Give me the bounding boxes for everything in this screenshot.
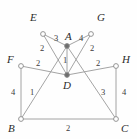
vertex-label-B: B bbox=[8, 123, 15, 134]
vertex-label-C: C bbox=[121, 123, 128, 134]
vertex-label-D: D bbox=[63, 80, 71, 91]
edge-weight-H-C: 4 bbox=[122, 88, 126, 97]
node-A bbox=[65, 44, 70, 49]
edge-weight-A-C: 3 bbox=[101, 88, 105, 97]
edge-weight-E-A: 3 bbox=[54, 34, 58, 43]
edge-B-A bbox=[21, 46, 67, 119]
vertex-label-E: E bbox=[30, 12, 37, 23]
node-D bbox=[65, 73, 70, 78]
node-G bbox=[89, 32, 94, 37]
edge-weight-A-D: 1 bbox=[63, 56, 67, 65]
edge-weight-B-A: 1 bbox=[30, 88, 34, 97]
edge-A-C bbox=[67, 46, 116, 119]
node-B bbox=[19, 117, 24, 122]
vertex-label-A: A bbox=[65, 31, 72, 42]
node-C bbox=[114, 117, 119, 122]
vertex-label-H: H bbox=[122, 54, 130, 65]
edge-weight-G-D: 2 bbox=[90, 44, 94, 53]
node-E bbox=[41, 32, 46, 37]
node-F bbox=[19, 64, 24, 69]
node-H bbox=[114, 64, 119, 69]
edge-weight-E-D: 2 bbox=[40, 44, 44, 53]
edge-weight-F-D: 2 bbox=[36, 59, 40, 68]
edge-weight-F-B: 4 bbox=[11, 88, 15, 97]
edge-D-H bbox=[67, 66, 116, 75]
node-layer bbox=[19, 32, 119, 122]
vertex-label-G: G bbox=[97, 12, 105, 23]
graph-canvas bbox=[0, 0, 137, 139]
graph-figure: EGAFHDBC342212241342 bbox=[0, 0, 137, 139]
edge-weight-A-G: 4 bbox=[79, 34, 83, 43]
vertex-label-F: F bbox=[7, 54, 14, 65]
edge-F-D bbox=[21, 66, 67, 75]
edge-weight-B-C: 2 bbox=[66, 124, 70, 133]
edge-weight-D-H: 2 bbox=[96, 59, 100, 68]
